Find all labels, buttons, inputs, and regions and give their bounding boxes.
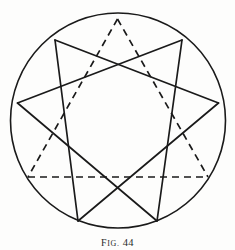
figure-page: FIG.44 — [0, 0, 235, 250]
caption-prefix-rest: IG. — [107, 239, 120, 248]
solid-star-polygon — [18, 40, 219, 221]
enneagram-diagram — [0, 0, 235, 250]
solid-edge-bottomright-upperright — [157, 40, 182, 221]
dashed-edge-top-lowerleft — [28, 19, 118, 177]
solid-edge-upperright-left — [18, 40, 183, 103]
enclosing-circle — [11, 13, 226, 228]
solid-edge-upperleft-right — [55, 40, 219, 103]
figure-caption: FIG.44 — [0, 232, 235, 250]
dashed-edge-top-lowerright — [118, 19, 209, 177]
solid-edge-left-bottomright — [18, 103, 158, 221]
caption-number: 44 — [123, 237, 134, 248]
solid-edge-bottomleft-upperleft — [55, 40, 78, 221]
solid-edge-right-bottomleft — [78, 103, 219, 221]
